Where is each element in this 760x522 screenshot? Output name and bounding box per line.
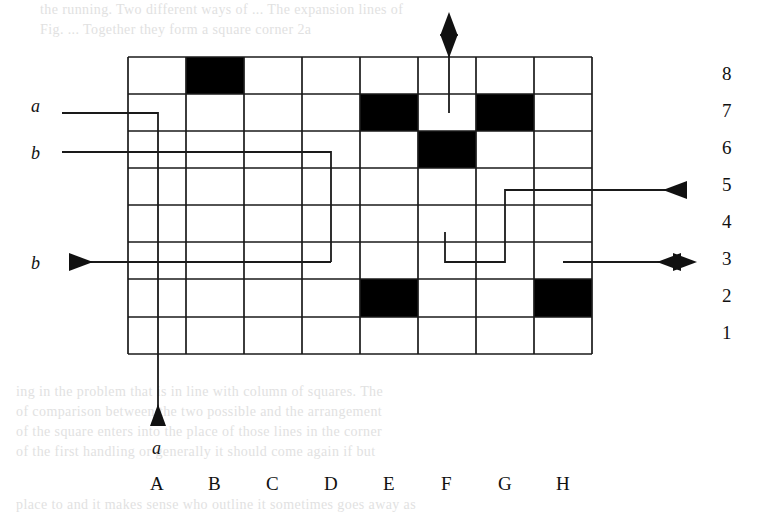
grid [128,57,592,354]
column-label-G: G [498,473,512,495]
row-label-3: 3 [722,248,732,270]
callout-label-a-bottom: a [152,438,161,459]
cell-B8 [186,57,244,94]
column-label-F: F [441,473,452,495]
row-label-2: 2 [722,285,732,307]
cell-E2 [360,279,418,317]
row-label-4: 4 [722,211,732,233]
column-label-C: C [266,473,279,495]
callout-label-b-upper: b [31,143,40,164]
row-label-8: 8 [722,63,732,85]
arrow-up-top [440,12,458,36]
column-label-A: A [150,473,164,495]
row-label-5: 5 [722,174,732,196]
column-label-H: H [556,473,570,495]
row-label-7: 7 [722,100,732,122]
callout-label-b-lower: b [31,253,40,274]
column-label-E: E [383,473,395,495]
grid-diagram [0,0,760,522]
filled-cells [186,57,592,317]
arrow-down-top [440,34,458,58]
arrow-left-row5 [663,181,687,199]
cell-E7 [360,94,418,131]
arrowheads [69,12,697,426]
row-label-6: 6 [722,137,732,159]
column-label-D: D [324,473,338,495]
cell-H2 [534,279,592,317]
arrow-right-b-lower [69,253,93,271]
row-label-1: 1 [722,322,732,344]
cell-F6 [418,131,476,168]
column-label-B: B [208,473,221,495]
arrow-up-a-bottom [150,404,166,426]
leader-row5-right [445,190,668,262]
cell-G7 [476,94,534,131]
callout-label-a-left: a [31,96,40,117]
